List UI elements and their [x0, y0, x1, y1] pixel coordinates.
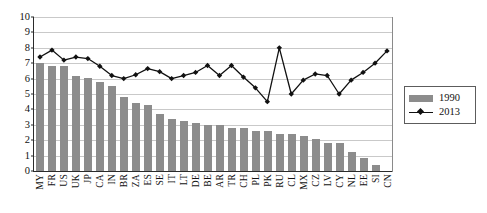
legend-label-2013: 2013: [439, 107, 460, 118]
x-axis-label: CH: [239, 174, 249, 188]
x-axis-label: CY: [335, 174, 345, 188]
x-axis-labels: MYFRUSUKJPCAINBRZAESSEITLTDEBEARTRCHPLPK…: [34, 17, 393, 171]
y-axis-tick-label: 9: [25, 27, 30, 38]
y-axis-tick-label: 0: [25, 166, 30, 177]
x-axis-label: AR: [215, 174, 225, 188]
x-axis-label: FR: [47, 174, 57, 186]
x-axis-label: BE: [203, 174, 213, 187]
x-axis-label: JP: [83, 174, 93, 183]
x-axis-label: MX: [299, 174, 309, 190]
line-diamond-icon: [409, 109, 433, 116]
x-axis-label: IN: [107, 174, 117, 185]
x-axis-label: EE: [359, 174, 369, 186]
x-axis-label: NL: [347, 174, 357, 187]
y-axis-tick-label: 8: [25, 43, 30, 54]
legend-item-2013: 2013: [409, 105, 470, 119]
y-axis-tick-label: 2: [25, 135, 30, 146]
y-axis-tick-label: 10: [20, 12, 31, 23]
x-axis-label: DE: [191, 174, 201, 187]
y-axis-tick-label: 5: [25, 89, 30, 100]
x-axis-label: PL: [251, 174, 261, 186]
x-axis-label: SE: [155, 174, 165, 186]
legend-label-1990: 1990: [439, 93, 460, 104]
x-axis-label: CN: [383, 174, 393, 188]
chart-container: 012345678910 MYFRUSUKJPCAINBRZAESSEITLTD…: [0, 0, 487, 213]
x-axis-label: ES: [143, 174, 153, 186]
y-axis-tick-label: 6: [25, 73, 30, 84]
bar-swatch-icon: [409, 95, 433, 102]
x-axis-label: BR: [119, 174, 129, 187]
x-axis-label: IT: [167, 174, 177, 183]
x-axis-label: RU: [275, 174, 285, 188]
y-axis-tick-label: 4: [25, 104, 30, 115]
x-axis-label: US: [59, 174, 69, 187]
chart-legend: 1990 2013: [404, 86, 476, 124]
y-axis-tick-label: 7: [25, 58, 30, 69]
plot-right-border: [392, 17, 393, 172]
y-axis-tick-label: 1: [25, 150, 30, 161]
x-axis-label: CZ: [311, 174, 321, 187]
x-axis-label: LT: [179, 174, 189, 185]
x-axis-label: SI: [371, 174, 381, 183]
x-axis-label: TR: [227, 174, 237, 187]
x-axis-label: CA: [95, 174, 105, 188]
x-axis-label: MY: [35, 174, 45, 190]
x-axis-label: LV: [323, 174, 333, 186]
plot-area: 012345678910 MYFRUSUKJPCAINBRZAESSEITLTD…: [33, 17, 393, 172]
x-axis-label: UK: [71, 174, 81, 188]
x-axis-label: PK: [263, 174, 273, 187]
y-axis-tick-label: 3: [25, 120, 30, 131]
legend-item-1990: 1990: [409, 91, 470, 105]
x-axis-label: ZA: [131, 174, 141, 187]
x-axis-label: CL: [287, 174, 297, 187]
